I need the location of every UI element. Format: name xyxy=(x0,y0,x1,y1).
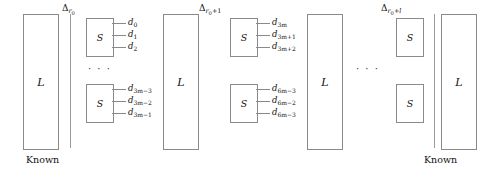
connector-stub xyxy=(256,101,270,102)
output-label-d3m-plus-2: d3m+2 xyxy=(272,42,296,52)
connector-stub xyxy=(256,35,270,36)
connector-stub xyxy=(112,23,126,24)
column-l-middle-1: L xyxy=(163,14,199,150)
s-box-g2-top: S xyxy=(230,18,258,57)
s-box-label: S xyxy=(97,98,104,109)
column-l-left-known: L xyxy=(23,14,59,150)
group-heading-r0-plus-l: Δr0+l xyxy=(381,3,401,15)
column-l-middle-2: L xyxy=(307,14,343,150)
connector-stub xyxy=(256,47,270,48)
output-label-d0: d0 xyxy=(128,18,137,28)
column-label: L xyxy=(37,76,44,89)
divider-right xyxy=(434,14,435,148)
s-box-g2-bottom: S xyxy=(230,84,258,123)
s-box-g3-bottom: S xyxy=(396,84,424,123)
output-label-d1: d1 xyxy=(128,30,137,40)
block-diagram-figure: L Known Δr0 S d0 d1 d2 · · · S d3m−3 d3m… xyxy=(0,0,477,180)
column-label: L xyxy=(177,76,184,89)
output-label-d6m-3: d6m−3 xyxy=(272,84,296,94)
column-label: L xyxy=(321,76,328,89)
connector-stub xyxy=(256,113,270,114)
delta-subsub: 0 xyxy=(72,9,75,15)
output-label-d3m-3: d3m−3 xyxy=(128,84,152,94)
output-label-d3m-plus-1: d3m+1 xyxy=(272,30,296,40)
s-box-label: S xyxy=(241,98,248,109)
delta-suffix: +1 xyxy=(212,7,222,15)
s-box-label: S xyxy=(407,98,414,109)
group-ellipsis-g1: · · · xyxy=(88,63,111,74)
group-heading-r0: Δr0 xyxy=(62,3,75,15)
column-l-right-known: L xyxy=(441,14,477,150)
output-label-d3m-1: d3m−1 xyxy=(128,108,152,118)
output-label-d2: d2 xyxy=(128,42,137,52)
s-box-g1-bottom: S xyxy=(86,84,114,123)
known-label-left: Known xyxy=(26,154,59,165)
output-label-d6m-last: d6m−3 xyxy=(272,108,296,118)
s-box-g1-top: S xyxy=(86,18,114,57)
connector-stub xyxy=(112,113,126,114)
s-box-g3-top: S xyxy=(396,18,424,57)
output-label-d6m-2: d6m−2 xyxy=(272,96,296,106)
connector-stub xyxy=(256,89,270,90)
delta-suffix: +l xyxy=(394,7,402,15)
s-box-label: S xyxy=(241,32,248,43)
connector-stub xyxy=(112,35,126,36)
output-label-d3m-2: d3m−2 xyxy=(128,96,152,106)
connector-stub xyxy=(112,47,126,48)
known-label-right: Known xyxy=(424,154,457,165)
connector-stub xyxy=(112,101,126,102)
output-label-d3m: d3m xyxy=(272,18,287,28)
connector-stub xyxy=(112,89,126,90)
inter-group-ellipsis: · · · xyxy=(356,63,379,74)
group-heading-r0-plus-1: Δr0+1 xyxy=(199,3,222,15)
s-box-label: S xyxy=(97,32,104,43)
s-box-label: S xyxy=(407,32,414,43)
column-label: L xyxy=(455,76,462,89)
divider-left xyxy=(70,14,71,148)
connector-stub xyxy=(256,23,270,24)
